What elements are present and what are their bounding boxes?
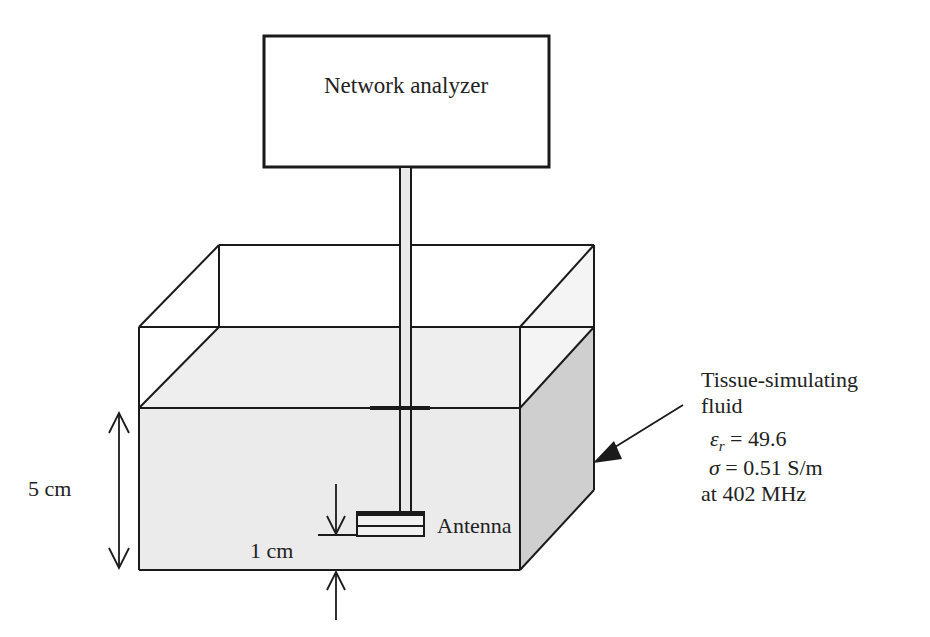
permittivity-line: εr = 49.6 (710, 426, 786, 454)
depth-dimension-arrow (109, 413, 129, 568)
depth-label: 5 cm (28, 476, 71, 501)
antenna-height-label: 1 cm (250, 538, 293, 563)
network-analyzer-box: Network analyzer (264, 36, 549, 167)
network-analyzer-label: Network analyzer (324, 73, 488, 98)
fluid-properties: Tissue-simulating fluid εr = 49.6 σ = 0.… (701, 367, 858, 506)
fluid-front-face (139, 408, 520, 570)
epsilon-symbol: ε (710, 426, 719, 451)
fluid-title-line1: Tissue-simulating (701, 367, 858, 392)
measurement-setup-diagram: Network analyzer (0, 0, 930, 637)
fluid-title-line2: fluid (701, 393, 743, 418)
antenna-label: Antenna (437, 513, 512, 538)
fluid-pointer-arrow (593, 405, 683, 463)
permittivity-value: = 49.6 (725, 426, 787, 451)
conductivity-value: = 0.51 S/m (720, 455, 823, 480)
frequency-label: at 402 MHz (701, 481, 806, 506)
conductivity-line: σ = 0.51 S/m (709, 455, 823, 480)
